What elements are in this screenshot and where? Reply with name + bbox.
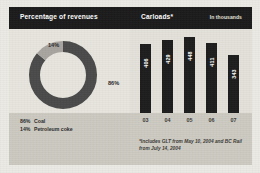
legend: 86% Coal 14% Petroleum coke xyxy=(20,118,73,133)
figure-container: Percentage of revenues Carloads* In thou… xyxy=(9,7,252,165)
x-axis-label-05: 05 xyxy=(184,117,195,123)
figure-screenshot: Percentage of revenues Carloads* In thou… xyxy=(0,0,260,173)
panel-title-carloads: Carloads* xyxy=(141,13,173,20)
legend-item-label: Coal xyxy=(34,118,45,124)
bar-07: 343 xyxy=(228,55,239,113)
bar-04: 429 xyxy=(162,40,173,113)
bar-06: 411 xyxy=(206,43,217,113)
bar-value-label: 343 xyxy=(228,71,239,77)
figure-header: Percentage of revenues Carloads* In thou… xyxy=(9,7,252,29)
donut-chart-svg xyxy=(26,38,100,112)
footnote-line-1: *Includes GLT from May 10, 2004 and BC R… xyxy=(139,138,245,145)
x-axis-label-04: 04 xyxy=(162,117,173,123)
bar-value-label: 429 xyxy=(162,56,173,62)
bar-chart-plot-area: 406429448411343 xyxy=(137,37,247,113)
bar-03: 406 xyxy=(140,44,151,113)
bar-chart-x-axis: 0304050607 xyxy=(137,117,247,127)
legend-item-petroleum-coke: 14% Petroleum coke xyxy=(20,126,73,132)
donut-chart xyxy=(26,38,100,112)
legend-item-coal: 86% Coal xyxy=(20,118,73,124)
units-label: In thousands xyxy=(210,14,242,20)
legend-item-percent: 86% xyxy=(20,118,34,124)
x-axis-label-03: 03 xyxy=(140,117,151,123)
bar-value-label: 448 xyxy=(184,53,195,59)
x-axis-label-07: 07 xyxy=(228,117,239,123)
footnote: *Includes GLT from May 10, 2004 and BC R… xyxy=(139,138,245,153)
panel-title-percentage-of-revenues: Percentage of revenues xyxy=(20,13,98,20)
donut-value-label-coal: 86% xyxy=(108,80,119,86)
bar-value-label: 411 xyxy=(206,59,217,65)
donut-value-label-petroleum-coke: 14% xyxy=(48,42,59,48)
legend-item-percent: 14% xyxy=(20,126,34,132)
footnote-line-2: from July 14, 2004 xyxy=(139,145,245,152)
legend-item-label: Petroleum coke xyxy=(34,126,73,132)
bar-05: 448 xyxy=(184,37,195,113)
x-axis-label-06: 06 xyxy=(206,117,217,123)
bar-value-label: 406 xyxy=(140,60,151,66)
